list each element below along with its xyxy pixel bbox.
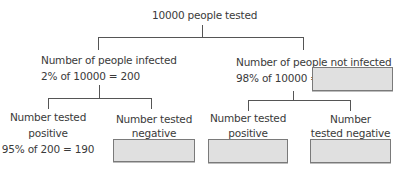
not-infected-subtree-horizontal [248, 100, 351, 101]
infected-subtree-vertical [99, 85, 100, 98]
infected-calculation: 2% of 10000 = 200 [41, 69, 140, 83]
root-label: 10000 people tested [152, 8, 252, 22]
not-infected-positive-label-line2: positive [208, 126, 288, 140]
infected-positive-calculation: 95% of 200 = 190 [0, 142, 96, 156]
root-connector-vertical [202, 25, 203, 37]
not-infected-positive-label-line1: Number tested [208, 111, 288, 125]
infected-branch-line [98, 37, 99, 50]
not-infected-positive-branch-line [248, 100, 249, 111]
infected-negative-label-line1: Number tested [113, 112, 195, 126]
not-infected-subtree-vertical [293, 91, 294, 100]
not-infected-negative-branch-line [350, 100, 351, 111]
not-infected-branch-line [303, 37, 304, 50]
not-infected-positive-answer-box[interactable] [208, 139, 288, 163]
infected-negative-label-line2: negative [113, 126, 195, 140]
infected-negative-branch-line [151, 98, 152, 109]
infected-positive-branch-line [48, 98, 49, 109]
not-infected-negative-label-line1: Number [310, 112, 391, 126]
infected-negative-answer-box[interactable] [113, 139, 195, 162]
not-infected-negative-label-line2: tested negative [304, 126, 397, 140]
infected-subtree-horizontal [48, 98, 152, 99]
infected-positive-label-line2: positive [8, 126, 88, 140]
not-infected-calculation: 98% of 10000 = [236, 71, 319, 85]
infected-positive-label-line1: Number tested [8, 110, 88, 124]
not-infected-answer-box[interactable] [312, 67, 393, 91]
infected-label: Number of people infected [41, 53, 177, 67]
root-connector-horizontal [98, 37, 304, 38]
not-infected-negative-answer-box[interactable] [310, 139, 391, 163]
